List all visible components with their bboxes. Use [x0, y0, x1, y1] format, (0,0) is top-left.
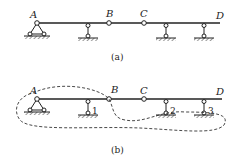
support-label-3: 3 — [208, 106, 214, 116]
figure-b: A B C D 1 2 3 (b) — [16, 84, 225, 155]
hinge-b — [107, 21, 112, 26]
label-b: B — [105, 8, 113, 19]
caption-b: (b) — [111, 145, 124, 155]
link-support-3 — [194, 24, 214, 42]
label-a: A — [29, 85, 37, 96]
caption-a: (a) — [111, 52, 123, 62]
dashed-boundary — [16, 86, 225, 131]
link-support-1 — [78, 24, 98, 42]
label-b: B — [110, 84, 118, 95]
hinge-c — [142, 97, 147, 102]
support-label-2: 2 — [170, 106, 176, 116]
label-c: C — [140, 8, 148, 19]
hinge-c — [142, 21, 147, 26]
label-c: C — [140, 85, 148, 96]
support-label-1: 1 — [92, 106, 98, 116]
label-d: D — [215, 86, 224, 97]
link-support-2 — [156, 24, 176, 42]
label-a: A — [29, 9, 37, 20]
diagram: A B C D (a) — [0, 0, 235, 163]
figure-a: A B C D (a) — [24, 8, 224, 62]
label-d: D — [215, 10, 224, 21]
